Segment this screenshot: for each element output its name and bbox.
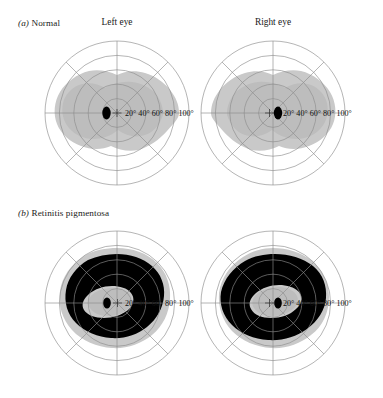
blind-spot-marker	[102, 107, 110, 120]
polar-plot-normal-left: 20° 40° 60° 80° 100°	[37, 33, 197, 193]
blind-spot-marker	[103, 297, 111, 308]
polar-plot-normal-right: 20° 40° 60° 80° 100°	[193, 33, 353, 193]
panel-a-letter: (a)	[18, 18, 29, 28]
radial-tick-labels: 20° 40° 60° 80° 100°	[125, 109, 194, 118]
blind-spot-marker	[274, 297, 282, 308]
column-header-left-eye: Left eye	[82, 17, 152, 27]
panel-a-caption: (a) Normal	[18, 18, 60, 28]
panel-b-title: Retinitis pigmentosa	[31, 208, 109, 218]
chart-normal-left-eye: 20° 40° 60° 80° 100°	[37, 33, 197, 193]
panel-b-letter: (b)	[18, 208, 29, 218]
radial-tick-labels: 20° 40° 60° 80° 100°	[283, 109, 352, 118]
radial-tick-labels: 20° 40° 60° 80° 100°	[283, 299, 352, 308]
chart-rp-left-eye: 20° 40° 60° 80° 100°	[37, 223, 197, 383]
panel-a-title: Normal	[31, 18, 60, 28]
chart-normal-right-eye: 20° 40° 60° 80° 100°	[193, 33, 353, 193]
panel-b-caption: (b) Retinitis pigmentosa	[18, 208, 109, 218]
visual-field-figure: (a) Normal Left eye Right eye	[0, 0, 383, 398]
chart-rp-right-eye: 20° 40° 60° 80° 100°	[193, 223, 353, 383]
blind-spot-marker	[274, 107, 282, 120]
polar-plot-rp-left: 20° 40° 60° 80° 100°	[37, 223, 197, 383]
radial-tick-labels: 20° 40° 60° 80° 100°	[125, 299, 194, 308]
column-header-right-eye: Right eye	[238, 17, 308, 27]
polar-plot-rp-right: 20° 40° 60° 80° 100°	[193, 223, 353, 383]
